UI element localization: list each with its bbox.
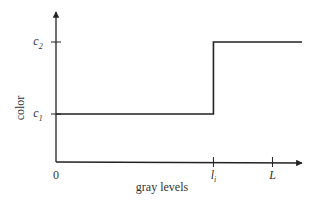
x-axis-label: gray levels [136, 180, 189, 194]
y-tick-label: c2 [33, 34, 42, 51]
chart: 0liLc1c2 color gray levels [0, 0, 320, 202]
x-tick-label: L [268, 168, 276, 182]
x-axis [56, 162, 302, 163]
y-tick-label: c1 [33, 106, 42, 123]
x-tick-label: li [211, 168, 217, 184]
y-axis-label: color [13, 96, 27, 121]
step-function-line [56, 42, 302, 114]
x-tick-label: 0 [53, 168, 59, 182]
